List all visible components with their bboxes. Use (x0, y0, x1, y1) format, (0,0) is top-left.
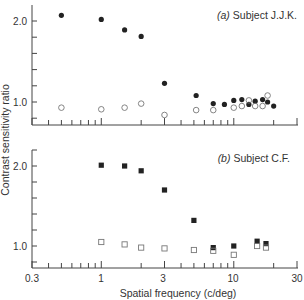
data-point-open-circle (252, 103, 258, 109)
data-point-filled-circle (194, 93, 199, 98)
data-point-filled-circle (211, 101, 216, 106)
data-point-filled-circle (99, 17, 104, 22)
data-point-filled-circle (260, 97, 265, 102)
data-point-filled-square (139, 168, 144, 173)
data-point-open-square (122, 242, 127, 247)
panel-b (32, 150, 298, 268)
xtick-3: 3 (160, 273, 166, 284)
data-point-open-circle (239, 103, 245, 109)
data-point-open-circle (193, 107, 199, 113)
panel-a-ytick-2: 2.0 (13, 16, 27, 27)
data-point-filled-square (211, 245, 216, 250)
data-point-filled-circle (271, 103, 276, 108)
data-point-open-circle (265, 93, 271, 99)
data-point-open-square (255, 243, 260, 248)
xtick-1: 1 (98, 273, 104, 284)
data-point-open-square (191, 247, 196, 252)
data-point-open-square (139, 245, 144, 250)
data-point-filled-square (99, 163, 104, 168)
data-point-filled-circle (59, 13, 64, 18)
panel-b-ytick-2: 2.0 (13, 161, 27, 172)
data-point-open-circle (122, 105, 128, 111)
data-point-filled-circle (239, 97, 244, 102)
data-point-open-circle (98, 106, 104, 112)
data-point-filled-circle (122, 27, 127, 32)
data-point-open-circle (231, 105, 237, 111)
y-axis-label: Contrast sensitivity ratio (0, 84, 11, 196)
data-point-open-square (162, 246, 167, 251)
data-point-filled-square (231, 243, 236, 248)
data-point-filled-circle (139, 34, 144, 39)
data-point-filled-square (122, 163, 127, 168)
panel-a-title: (a) Subject J.J.K. (217, 9, 297, 21)
data-point-filled-square (162, 187, 167, 192)
data-point-open-circle (59, 105, 65, 111)
spatial-frequency-chart: Contrast sensitivity ratio (a) Subject J… (0, 0, 304, 300)
data-point-filled-circle (162, 81, 167, 86)
panel-a-ytick-1: 1.0 (13, 97, 27, 108)
x-axis-label: Spatial frequency (c/deg) (120, 287, 237, 299)
data-point-filled-square (191, 218, 196, 223)
data-point-open-circle (162, 112, 168, 118)
data-point-filled-circle (265, 99, 270, 104)
data-point-filled-circle (222, 102, 227, 107)
data-point-open-circle (138, 101, 144, 107)
xtick-10: 10 (227, 273, 239, 284)
data-point-filled-circle (231, 98, 236, 103)
panel-b-title: (b) Subject C.F. (218, 152, 290, 164)
panel-b-ytick-1: 1.0 (13, 241, 27, 252)
panel-a (32, 5, 298, 125)
data-point-open-square (99, 239, 104, 244)
data-point-open-square (231, 252, 236, 257)
xtick-30: 30 (291, 273, 303, 284)
data-point-open-circle (260, 103, 266, 109)
data-point-open-circle (210, 107, 216, 113)
xtick-0.3: 0.3 (25, 273, 39, 284)
